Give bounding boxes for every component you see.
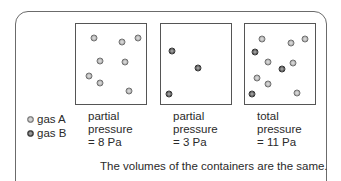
label-line: pressure <box>173 123 218 136</box>
gas-a-particle <box>119 39 126 46</box>
gas-a-particle <box>258 36 265 43</box>
gas-a-particle <box>265 58 272 65</box>
container-mixture <box>244 23 316 105</box>
label-line: total <box>257 110 302 123</box>
container-label-gas-b: partial pressure = 3 Pa <box>173 110 218 149</box>
gas-a-particle <box>302 36 309 43</box>
gas-b-particle <box>166 90 173 97</box>
legend-item-gas-b: gas B <box>27 126 66 140</box>
gas-a-particle <box>122 59 129 66</box>
caption: The volumes of the containers are the sa… <box>100 160 328 172</box>
gas-a-particle <box>134 35 141 42</box>
gas-a-particle <box>290 60 297 67</box>
gas-b-particle <box>251 49 258 56</box>
container-gas-a <box>75 23 147 105</box>
gas-a-particle <box>293 89 300 96</box>
gas-a-particle <box>85 73 92 80</box>
gas-a-particle <box>90 35 97 42</box>
label-line: partial <box>173 110 218 123</box>
pressure-value: = 8 Pa <box>88 136 133 149</box>
pressure-value: = 3 Pa <box>173 136 218 149</box>
gas-a-particle <box>96 80 103 87</box>
gas-a-particle <box>96 57 103 64</box>
container-gas-b <box>160 23 232 105</box>
gas-b-particle <box>249 91 256 98</box>
gas-a-particle <box>126 88 133 95</box>
legend-label: gas B <box>37 126 66 140</box>
gas-a-particle <box>253 74 260 81</box>
legend-item-gas-a: gas A <box>27 112 66 126</box>
gas-b-particle <box>279 65 286 72</box>
gas-b-particle <box>168 48 175 55</box>
gas-b-particle <box>195 65 202 72</box>
label-line: pressure <box>257 123 302 136</box>
pressure-value: = 11 Pa <box>257 136 302 149</box>
label-line: partial <box>88 110 133 123</box>
gas-b-particle-icon <box>27 130 34 137</box>
legend: gas A gas B <box>27 112 66 140</box>
legend-label: gas A <box>37 112 66 126</box>
gas-a-particle-icon <box>27 116 34 123</box>
container-label-gas-a: partial pressure = 8 Pa <box>88 110 133 149</box>
container-label-mixture: total pressure = 11 Pa <box>257 110 302 149</box>
label-line: pressure <box>88 123 133 136</box>
gas-a-particle <box>287 40 294 47</box>
gas-a-particle <box>265 81 272 88</box>
